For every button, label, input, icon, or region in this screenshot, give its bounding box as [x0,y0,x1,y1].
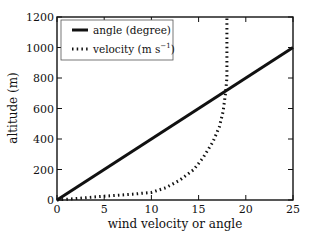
legend: angle (degree) velocity (m s−1) [61,20,175,60]
x-tick-label: 5 [101,203,108,216]
angle-line [57,48,293,201]
x-tick-label: 0 [54,203,61,216]
y-tick-label: 200 [33,164,54,177]
y-tick-label: 800 [33,72,54,85]
x-tick-label: 15 [192,203,206,216]
legend-label-angle: angle (degree) [93,24,171,36]
x-tick-label: 20 [239,203,253,216]
y-tick-label: 1200 [26,11,54,24]
y-tick-label: 1000 [26,42,54,55]
x-tick-label: 10 [144,203,158,216]
x-axis-label: wind velocity or angle [108,217,243,231]
y-axis-label: altitude (m) [6,72,20,144]
y-tick-label: 600 [33,103,54,116]
legend-superscript: −1 [160,42,170,50]
y-tick-label: 0 [47,194,54,207]
x-tick-label: 25 [286,203,300,216]
chart: 0510152025 020040060080010001200 wind ve… [0,0,314,240]
y-tick-label: 400 [33,133,54,146]
